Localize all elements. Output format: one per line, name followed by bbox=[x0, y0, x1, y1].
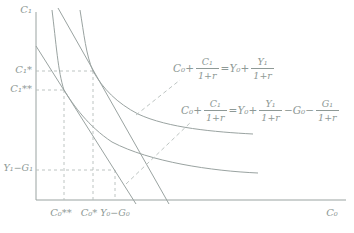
indifference-curve-low bbox=[52, 10, 258, 173]
figure-stage: C₁ C₁* C₁** Y₁−G₁ C₀** C₀* Y₀−G₀ C₀ C₀+C… bbox=[0, 0, 354, 233]
y-tick-c1-double-star: C₁** bbox=[6, 83, 32, 95]
y-tick-c1-star: C₁* bbox=[6, 64, 32, 76]
equation-text: C₀+ bbox=[172, 63, 195, 74]
budget-line-with-government bbox=[36, 46, 136, 204]
equation-text: C₀+ bbox=[180, 105, 203, 116]
y-tick-y1-minus-g1: Y₁−G₁ bbox=[0, 162, 33, 174]
equation-fraction: C₁1+r bbox=[196, 57, 219, 80]
x-tick-c0-double-star: C₀** bbox=[48, 207, 74, 219]
leader-line-with-gov-equation bbox=[126, 122, 191, 184]
equation-text: =Y₀+ bbox=[228, 105, 259, 116]
equation-fraction: Y₁1+r bbox=[259, 99, 282, 122]
equation-text: =Y₀+ bbox=[220, 63, 251, 74]
equation-fraction: G₁1+r bbox=[316, 99, 339, 122]
equation-fraction: C₁1+r bbox=[204, 99, 227, 122]
equation-budget-with-government: C₀+C₁1+r=Y₀+Y₁1+r−G₀−G₁1+r bbox=[180, 99, 340, 122]
equation-budget-no-government: C₀+C₁1+r=Y₀+Y₁1+r bbox=[172, 57, 275, 80]
x-axis-title: C₀ bbox=[320, 207, 344, 219]
leader-line-no-gov-equation bbox=[136, 80, 180, 115]
y-axis-title: C₁ bbox=[8, 4, 32, 16]
equation-text: −G₀− bbox=[283, 105, 315, 116]
equation-fraction: Y₁1+r bbox=[251, 57, 274, 80]
x-tick-y0-minus-g0: Y₀−G₀ bbox=[95, 207, 135, 219]
